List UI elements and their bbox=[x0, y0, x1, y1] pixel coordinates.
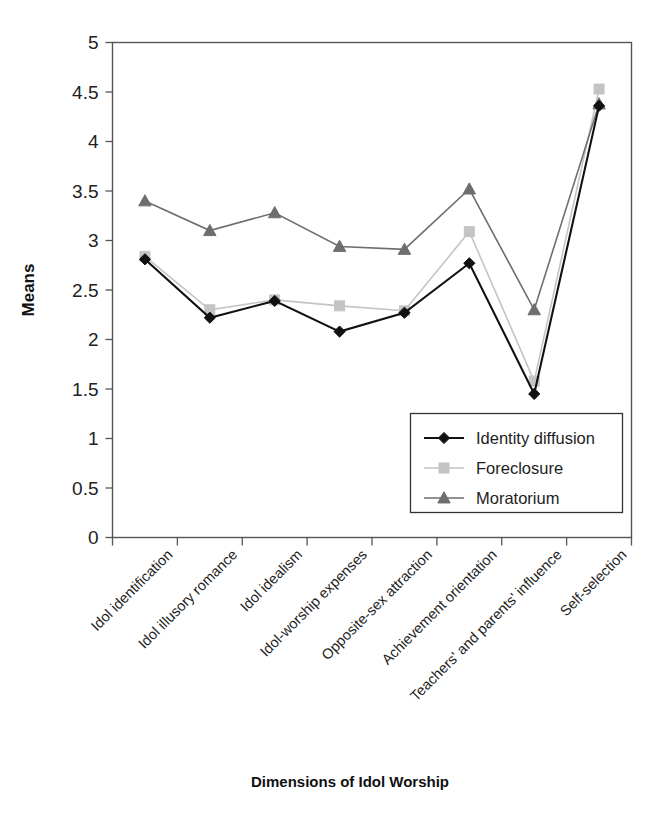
series-layer bbox=[139, 84, 606, 400]
legend-label: Foreclosure bbox=[476, 459, 563, 477]
x-tick-label: Achievement orientation bbox=[379, 546, 500, 667]
y-axis: 54.543.532.521.510.50 bbox=[72, 32, 112, 548]
data-point-marker bbox=[528, 304, 540, 315]
x-tick-labels: Idol identificationIdol illusory romance… bbox=[88, 546, 630, 704]
y-tick-label: 1 bbox=[88, 428, 99, 449]
y-tick-label: 5 bbox=[88, 32, 99, 53]
y-tick-label: 2.5 bbox=[72, 280, 98, 301]
x-axis bbox=[113, 538, 632, 546]
data-point-marker bbox=[594, 84, 604, 94]
y-tick-label: 3.5 bbox=[72, 181, 98, 202]
line-chart-svg: 54.543.532.521.510.50 Means Idol identif… bbox=[0, 0, 664, 819]
y-tick-label: 0.5 bbox=[72, 478, 98, 499]
y-tick-label: 4 bbox=[88, 131, 99, 152]
data-point-marker bbox=[139, 195, 151, 206]
y-tick-label: 1.5 bbox=[72, 379, 98, 400]
y-axis-title: Means bbox=[19, 264, 38, 317]
chart-figure: 54.543.532.521.510.50 Means Idol identif… bbox=[0, 0, 664, 819]
x-tick-label: Opposite-sex attraction bbox=[318, 546, 435, 663]
x-axis-title: Dimensions of Idol Worship bbox=[251, 773, 449, 790]
data-point-marker bbox=[335, 301, 345, 311]
data-point-marker bbox=[334, 326, 345, 337]
x-tick-label: Idol idealism bbox=[237, 546, 305, 614]
data-point-marker bbox=[463, 183, 475, 194]
series-line bbox=[145, 106, 599, 394]
y-tick-label: 2 bbox=[88, 329, 99, 350]
y-tick-label: 3 bbox=[88, 230, 99, 251]
data-point-marker bbox=[439, 463, 449, 473]
chart-legend[interactable]: Identity diffusionForeclosureMoratorium bbox=[411, 414, 623, 513]
series-line bbox=[145, 104, 599, 310]
series-moratorium bbox=[139, 98, 606, 315]
x-tick-label: Idol-worship expenses bbox=[257, 546, 370, 659]
y-tick-label: 4.5 bbox=[72, 82, 98, 103]
data-point-marker bbox=[464, 227, 474, 237]
x-tick-label: Self-selection bbox=[557, 546, 630, 619]
data-point-marker bbox=[268, 207, 280, 218]
data-point-marker bbox=[333, 240, 345, 251]
data-point-marker bbox=[529, 388, 540, 399]
legend-label: Identity diffusion bbox=[476, 429, 595, 447]
series-identity-diffusion bbox=[139, 100, 604, 399]
y-tick-label: 0 bbox=[88, 527, 99, 548]
legend-label: Moratorium bbox=[476, 489, 559, 507]
